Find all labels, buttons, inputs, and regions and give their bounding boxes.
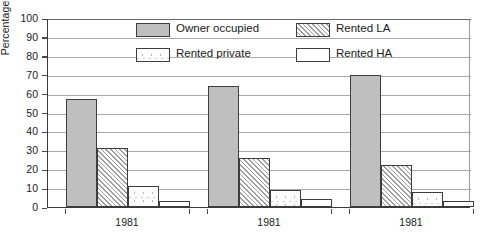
x-tick-mark-2a [207, 209, 208, 214]
bar-rented-ha-group-3 [443, 201, 474, 207]
y-tick-label-10: 10 [8, 182, 38, 194]
bar-owner-occupied-group-3 [350, 75, 381, 207]
legend-swatch-owner-occupied [136, 23, 170, 37]
chart-legend: Owner occupied Rented LA Rented private … [136, 20, 456, 67]
bar-rented-la-group-2 [239, 158, 270, 207]
legend-label-owner-occupied: Owner occupied [176, 22, 259, 34]
bar-rented-ha-group-2 [301, 199, 332, 207]
legend-label-rented-ha: Rented HA [336, 47, 392, 59]
y-tick-label-50: 50 [8, 107, 38, 119]
legend-label-rented-private: Rented private [176, 47, 251, 59]
x-tick-label-group-2: 1981 [234, 216, 304, 228]
y-tick-label-90: 90 [8, 31, 38, 43]
bar-rented-private-group-2 [270, 190, 301, 207]
bar-owner-occupied-group-2 [208, 86, 239, 207]
x-tick-label-group-1: 1981 [92, 216, 162, 228]
legend-swatch-rented-la [296, 23, 330, 37]
gridline-70 [48, 76, 471, 77]
legend-swatch-rented-ha [296, 48, 330, 62]
legend-swatch-rented-private [136, 48, 170, 62]
x-tick-mark-1b [189, 209, 190, 214]
x-tick-mark-3b [473, 209, 474, 214]
y-tick-label-60: 60 [8, 88, 38, 100]
y-tick-label-100: 100 [8, 12, 38, 24]
y-tick-label-30: 30 [8, 144, 38, 156]
gridline-60 [48, 95, 471, 96]
y-tick-label-20: 20 [8, 163, 38, 175]
bar-rented-private-group-3 [412, 192, 443, 207]
bar-rented-la-group-3 [381, 165, 412, 207]
bar-rented-la-group-1 [97, 148, 128, 207]
x-tick-mark-2b [331, 209, 332, 214]
y-tick-label-40: 40 [8, 125, 38, 137]
x-tick-mark-3a [349, 209, 350, 214]
x-tick-label-group-3: 1981 [376, 216, 446, 228]
gridline-50 [48, 114, 471, 115]
bar-rented-private-group-1 [128, 186, 159, 207]
bar-owner-occupied-group-1 [66, 99, 97, 207]
bar-chart: Percentage 1009080706050403020100 198119… [0, 0, 481, 241]
y-tick-label-0: 0 [8, 201, 38, 213]
bar-rented-ha-group-1 [159, 201, 190, 207]
gridline-40 [48, 132, 471, 133]
x-tick-mark-1a [65, 209, 66, 214]
y-tick-label-80: 80 [8, 50, 38, 62]
legend-label-rented-la: Rented LA [336, 22, 390, 34]
y-tick-label-70: 70 [8, 69, 38, 81]
